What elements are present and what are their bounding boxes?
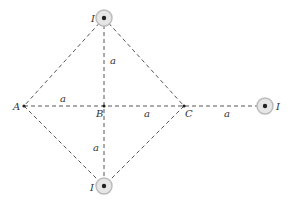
label-distance-B-bottom: a (93, 142, 99, 153)
wire-bottom (96, 178, 112, 194)
edge-A-bottom (24, 106, 104, 186)
label-distance-top-B: a (110, 55, 116, 66)
label-current-right: I (275, 101, 281, 112)
wire-top (96, 10, 112, 26)
label-point-C: C (185, 108, 193, 119)
wire-right (257, 98, 273, 114)
label-current-bottom: I (89, 182, 95, 193)
label-distance-A-B: a (60, 93, 66, 104)
diagram-canvas: I I I A B C a a a a a (0, 0, 290, 204)
edge-top-C (104, 18, 184, 106)
label-point-A: A (12, 101, 20, 112)
label-point-B: B (95, 108, 103, 119)
label-distance-C-right: a (224, 108, 230, 119)
label-distance-B-C: a (144, 108, 150, 119)
label-current-top: I (90, 13, 96, 24)
point-A (22, 104, 25, 107)
